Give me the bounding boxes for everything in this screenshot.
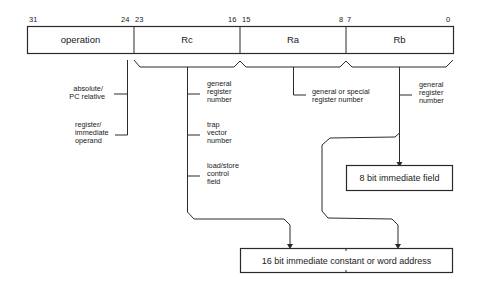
field-rb: Rb (393, 34, 405, 45)
rc-lead-line (188, 67, 291, 245)
field-operation: operation (61, 34, 101, 45)
note-general-register-number-rc: general register number (207, 79, 233, 104)
field-ra: Ra (287, 34, 300, 45)
bit-labels: 31 24 23 16 15 8 7 0 (29, 15, 450, 24)
note-general-register-number-rb: general register number (419, 80, 445, 105)
ra-lead-line (294, 67, 307, 95)
bit-8: 8 (339, 15, 343, 24)
imm8-label: 8 bit immediate field (359, 173, 439, 183)
operation-annotations: absolute/ PC relative register/ immediat… (69, 60, 127, 145)
bit-0: 0 (446, 15, 450, 24)
field-rc: Rc (181, 34, 193, 45)
imm16-label: 16 bit immediate constant or word addres… (262, 256, 432, 266)
note-absolute-pc-relative: absolute/ PC relative (69, 84, 105, 101)
imm16-target: 16 bit immediate constant or word addres… (241, 249, 453, 273)
note-load-store-control-field: load/store control field (207, 161, 241, 186)
note-general-or-special-register-number: general or special register number (312, 87, 372, 104)
imm8-target: 8 bit immediate field (347, 166, 453, 191)
bit-15: 15 (242, 15, 250, 24)
instruction-format-diagram: 31 24 23 16 15 8 7 0 operation Rc Ra Rb … (0, 0, 477, 291)
bit-31: 31 (29, 15, 37, 24)
ra-annotations: general or special register number (294, 67, 372, 104)
bit-16: 16 (228, 15, 236, 24)
instruction-word: operation Rc Ra Rb (28, 27, 454, 54)
bit-7: 7 (347, 15, 351, 24)
note-register-immediate-operand: register/ immediate operand (75, 120, 111, 145)
note-trap-vector-number: trap vector number (207, 120, 232, 145)
rc-annotations: general register number trap vector numb… (188, 67, 294, 249)
bit-23: 23 (135, 15, 143, 24)
bit-24: 24 (121, 15, 129, 24)
field-brackets (134, 60, 453, 67)
